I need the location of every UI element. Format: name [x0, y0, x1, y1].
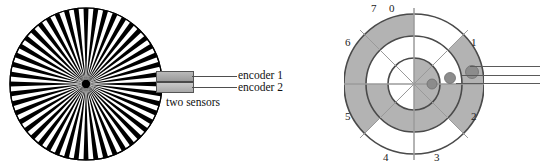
sector-label-4: 4	[383, 152, 389, 163]
sensor-slit	[157, 81, 193, 83]
sector-label-1: 1	[471, 37, 477, 48]
sector-label-0: 0	[389, 3, 395, 14]
outer-sensor	[466, 66, 479, 79]
encoder-1-lead-line	[192, 76, 237, 77]
inner-sensor-lead-line	[456, 83, 540, 84]
absolute-encoder-disk	[344, 6, 484, 162]
two-sensor-block	[156, 71, 194, 93]
encoder-1-label: encoder 1	[238, 69, 283, 81]
sector-label-7: 7	[371, 3, 377, 14]
encoder-2-label: encoder 2	[238, 81, 283, 93]
sector-label-3: 3	[434, 152, 440, 163]
absolute-encoder-figure: 0 1 2 3 4 5 6 7	[330, 0, 540, 168]
sector-label-2: 2	[471, 111, 477, 122]
figure-canvas: encoder 1 encoder 2 two sensors 0 1 2 3 …	[0, 0, 540, 168]
middle-sensor	[445, 73, 456, 84]
outer-sensor-lead-line	[470, 66, 540, 67]
two-sensors-label: two sensors	[166, 96, 220, 108]
encoder-2-lead-line	[192, 87, 237, 88]
middle-sensor-lead-line	[462, 75, 540, 76]
inner-sensor	[427, 79, 437, 89]
incremental-encoder-figure: encoder 1 encoder 2 two sensors	[0, 0, 270, 168]
sector-label-5: 5	[345, 111, 351, 122]
incremental-encoder-disk	[8, 6, 164, 162]
sector-label-6: 6	[345, 37, 351, 48]
